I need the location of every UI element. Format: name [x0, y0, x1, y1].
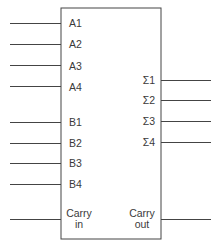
label-a1: A1	[69, 18, 82, 29]
label-b4: B4	[69, 179, 82, 190]
carry-in-line2: in	[66, 219, 92, 230]
label-a4: A4	[69, 82, 82, 93]
label-sum2: Σ2	[128, 95, 155, 106]
label-b2: B2	[69, 138, 82, 149]
label-carry-in: Carry in	[66, 208, 92, 230]
label-a3: A3	[69, 61, 82, 72]
label-b3: B3	[69, 158, 82, 169]
label-sum4: Σ4	[128, 137, 155, 148]
input-lines	[10, 24, 61, 220]
adder-diagram	[0, 0, 221, 243]
label-a2: A2	[69, 39, 82, 50]
output-lines	[161, 81, 211, 220]
label-carry-out: Carry out	[127, 208, 157, 230]
label-sum1: Σ1	[128, 75, 155, 86]
label-sum3: Σ3	[128, 116, 155, 127]
carry-out-line2: out	[127, 219, 157, 230]
label-b1: B1	[69, 117, 82, 128]
